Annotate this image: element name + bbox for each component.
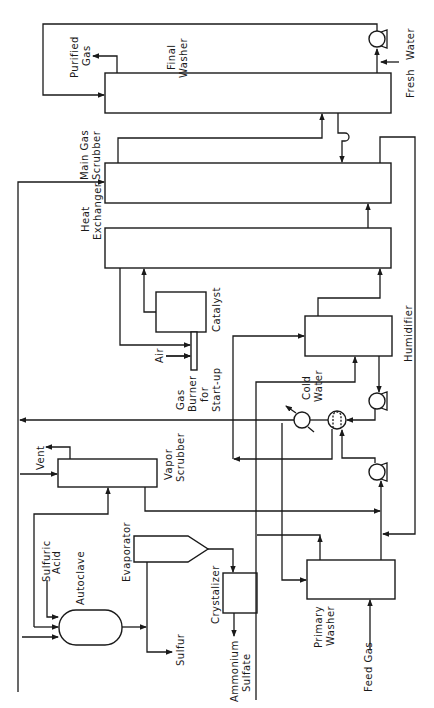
svg-text:Crystalizer: Crystalizer xyxy=(210,565,221,624)
cold-water-label: Cold Water xyxy=(301,370,324,402)
svg-text:Vent: Vent xyxy=(35,446,46,470)
svg-text:Sulfur: Sulfur xyxy=(175,633,186,666)
svg-text:Vapor: Vapor xyxy=(163,448,174,480)
catalyst-vessel xyxy=(156,292,206,332)
autoclave-vessel xyxy=(59,610,122,645)
sulfur-label: Sulfur xyxy=(175,633,186,666)
fresh-water-label: Fresh xyxy=(405,69,416,98)
final-washer-vessel xyxy=(105,73,391,113)
process-flow-diagram: Final Washer Purified Gas Fresh Water Ma… xyxy=(0,0,434,708)
lower-pump-to-exchanger xyxy=(342,430,375,463)
pump-to-exchanger xyxy=(347,409,375,420)
humidifier-to-heat-exchanger xyxy=(318,269,380,316)
svg-text:Humidifier: Humidifier xyxy=(403,305,414,362)
svg-text:Start-up: Start-up xyxy=(211,367,222,412)
exchanger-icon xyxy=(328,411,346,429)
purified-gas-line xyxy=(93,56,117,73)
svg-text:for: for xyxy=(199,386,210,402)
scrubber-to-final-washer xyxy=(118,114,322,163)
vapor-scrubber-to-pump-line xyxy=(145,487,380,511)
vent-label: Vent xyxy=(35,446,46,470)
evaporator-label: Evaporator xyxy=(121,521,132,582)
svg-text:Purified: Purified xyxy=(69,36,80,78)
gas-burner-label: Gas Burner for Start-up xyxy=(175,367,222,412)
pump-icon-top xyxy=(369,30,387,48)
svg-text:Water: Water xyxy=(405,28,416,60)
exchanger-outlet-left xyxy=(234,429,332,459)
primary-washer-to-humidifier xyxy=(257,535,320,560)
humidifier-label: Humidifier xyxy=(403,305,414,362)
fresh-water-label-2: Water xyxy=(405,28,416,60)
gas-burner-bar xyxy=(191,332,197,370)
svg-text:Ammonium: Ammonium xyxy=(229,640,240,702)
feed-gas-label: Feed Gas xyxy=(363,642,374,692)
vapor-scrubber-vessel xyxy=(58,459,157,487)
heat-exchanger-label: Heat Exchanger xyxy=(80,182,103,240)
svg-text:Primary: Primary xyxy=(313,606,324,648)
primary-washer-vessel xyxy=(307,560,395,599)
svg-text:Exchanger: Exchanger xyxy=(92,182,103,240)
final-washer-liquid-down xyxy=(338,113,349,162)
pump-icon-middle xyxy=(369,392,387,410)
svg-text:Evaporator: Evaporator xyxy=(121,521,132,582)
pump-icon-lower xyxy=(369,463,387,481)
svg-text:Cold: Cold xyxy=(301,376,312,400)
svg-text:Autoclave: Autoclave xyxy=(75,551,86,605)
primary-washer-label: Primary Washer xyxy=(313,605,336,648)
crystalizer-vessel xyxy=(223,573,257,613)
crystalizer-label: Crystalizer xyxy=(210,565,221,624)
cooler-to-primary-washer xyxy=(282,423,306,580)
svg-text:Water: Water xyxy=(313,370,324,402)
svg-text:Gas: Gas xyxy=(81,45,92,66)
final-washer-label: Final Washer xyxy=(166,37,189,78)
evaporator-down-line xyxy=(147,562,172,652)
autoclave-label: Autoclave xyxy=(75,551,86,605)
svg-text:Fresh: Fresh xyxy=(405,69,416,98)
svg-text:Sulfate: Sulfate xyxy=(241,653,252,692)
svg-text:Washer: Washer xyxy=(178,37,189,78)
svg-text:Final: Final xyxy=(166,44,177,70)
main-gas-scrubber-label: Main Gas Scrubber xyxy=(79,130,102,180)
svg-text:Washer: Washer xyxy=(325,605,336,646)
air-label: Air xyxy=(154,347,165,363)
svg-text:Burner: Burner xyxy=(187,375,198,412)
heat-exchanger-vessel xyxy=(105,228,391,268)
svg-text:Feed Gas: Feed Gas xyxy=(363,642,374,692)
svg-text:Heat: Heat xyxy=(80,206,91,232)
purified-gas-label: Purified Gas xyxy=(69,36,92,78)
line-to-humidifier-bottom xyxy=(256,357,355,700)
main-gas-scrubber-vessel xyxy=(105,163,391,203)
svg-text:Scrubber: Scrubber xyxy=(91,130,102,180)
sulfuric-acid-line xyxy=(47,580,58,617)
ammonium-sulfate-label: Ammonium Sulfate xyxy=(229,640,252,702)
line-into-humidifier xyxy=(233,336,304,459)
svg-text:Gas: Gas xyxy=(175,389,186,410)
svg-text:Main Gas: Main Gas xyxy=(79,130,90,180)
vent-line xyxy=(46,447,70,459)
humidifier-vessel xyxy=(305,316,392,356)
svg-text:Acid: Acid xyxy=(51,551,62,574)
svg-text:Catalyst: Catalyst xyxy=(211,287,222,332)
sulfuric-acid-label: Sulfuric Acid xyxy=(41,540,62,582)
svg-text:Air: Air xyxy=(154,347,165,363)
vapor-scrubber-label: Vapor Scrubber xyxy=(163,432,186,482)
catalyst-label: Catalyst xyxy=(211,287,222,332)
catalyst-to-heat-exchanger xyxy=(144,269,156,312)
svg-text:Scrubber: Scrubber xyxy=(175,432,186,482)
cooler-icon xyxy=(286,406,314,432)
evaporator-vessel xyxy=(134,536,208,562)
